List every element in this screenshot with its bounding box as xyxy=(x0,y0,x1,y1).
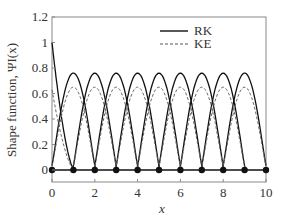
svg-text:0.8: 0.8 xyxy=(32,60,48,75)
y-axis-label: Shape function, ΨI(x) xyxy=(4,43,19,157)
svg-text:0: 0 xyxy=(42,162,49,177)
legend: RK KE xyxy=(160,23,213,51)
svg-text:0.6: 0.6 xyxy=(32,86,49,101)
svg-text:4: 4 xyxy=(134,185,141,200)
x-axis-label: x xyxy=(158,201,165,216)
svg-text:0.4: 0.4 xyxy=(32,111,49,126)
curves xyxy=(49,43,269,174)
svg-text:10: 10 xyxy=(260,185,273,200)
svg-text:1.2: 1.2 xyxy=(32,9,48,24)
svg-text:8: 8 xyxy=(220,185,227,200)
svg-text:6: 6 xyxy=(177,185,184,200)
svg-text:1: 1 xyxy=(42,35,49,50)
svg-text:2: 2 xyxy=(92,185,99,200)
svg-text:0.2: 0.2 xyxy=(32,137,48,152)
svg-text:0: 0 xyxy=(49,185,56,200)
legend-ke: KE xyxy=(194,36,211,51)
shape-function-chart: 00.20.40.60.811.2 0246810 RK KE x Shape … xyxy=(0,0,285,220)
